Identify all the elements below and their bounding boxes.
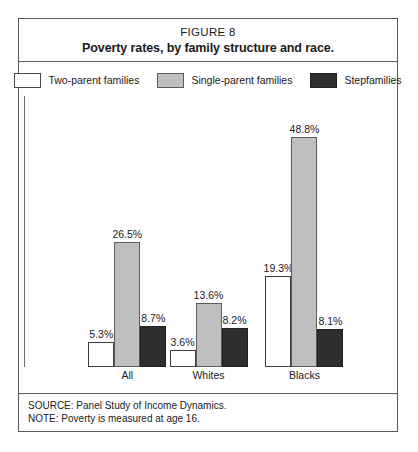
bar-rect bbox=[140, 326, 166, 367]
legend-entry: Two-parent families bbox=[14, 73, 139, 88]
chart-legend: Two-parent familiesSingle-parent familie… bbox=[19, 62, 397, 96]
bar-value-label: 13.6% bbox=[194, 289, 224, 301]
bar-rect bbox=[196, 303, 222, 367]
bar-value-label: 8.2% bbox=[223, 314, 247, 326]
figure-number: FIGURE 8 bbox=[27, 25, 389, 39]
source-line: SOURCE: Panel Study of Income Dynamics. bbox=[28, 400, 389, 413]
bar-rect bbox=[170, 350, 196, 367]
bar-column: 5.3% bbox=[88, 96, 114, 367]
bar-group-all: 5.3%26.5%8.7% bbox=[88, 96, 166, 367]
bar-group-blacks: 19.3%48.8%8.1% bbox=[265, 96, 343, 367]
bar-column: 26.5% bbox=[114, 96, 140, 367]
bar-column: 13.6% bbox=[196, 96, 222, 367]
bar-value-label: 8.7% bbox=[141, 312, 165, 324]
legend-entry-label: Single-parent families bbox=[191, 74, 292, 86]
category-label-all: All bbox=[121, 369, 133, 382]
bar-column: 8.1% bbox=[317, 96, 343, 367]
category-label-blacks: Blacks bbox=[289, 369, 320, 382]
bar-value-label: 3.6% bbox=[171, 336, 195, 348]
bar-rect bbox=[88, 342, 114, 367]
note-line: NOTE: Poverty is measured at age 16. bbox=[28, 413, 389, 426]
legend-swatch-stepfamily bbox=[310, 73, 337, 88]
legend-entry-label: Stepfamilies bbox=[344, 74, 401, 86]
legend-entry: Stepfamilies bbox=[310, 73, 401, 88]
bar-value-label: 5.3% bbox=[89, 328, 113, 340]
bar-column: 19.3% bbox=[265, 96, 291, 367]
bar-column: 8.7% bbox=[140, 96, 166, 367]
bar-value-label: 26.5% bbox=[112, 228, 142, 240]
bar-rect bbox=[291, 137, 317, 367]
figure-title: Poverty rates, by family structure and r… bbox=[27, 40, 389, 56]
bar-column: 3.6% bbox=[170, 96, 196, 367]
figure-footer: SOURCE: Panel Study of Income Dynamics. … bbox=[19, 393, 397, 431]
bar-value-label: 8.1% bbox=[318, 315, 342, 327]
category-axis-labels: AllWhitesBlacks bbox=[24, 369, 393, 389]
figure-header: FIGURE 8 Poverty rates, by family struct… bbox=[19, 19, 397, 62]
bar-rect bbox=[265, 276, 291, 367]
legend-swatch-two-parent bbox=[14, 73, 41, 88]
bar-column: 48.8% bbox=[291, 96, 317, 367]
legend-swatch-single-parent bbox=[157, 73, 184, 88]
bars-region: 5.3%26.5%8.7%3.6%13.6%8.2%19.3%48.8%8.1% bbox=[24, 96, 393, 367]
bar-rect bbox=[317, 329, 343, 367]
bar-value-label: 48.8% bbox=[290, 123, 320, 135]
bar-group-whites: 3.6%13.6%8.2% bbox=[170, 96, 248, 367]
bar-rect bbox=[222, 328, 248, 367]
figure-container: FIGURE 8 Poverty rates, by family struct… bbox=[18, 18, 398, 432]
plot-area: 5.3%26.5%8.7%3.6%13.6%8.2%19.3%48.8%8.1%… bbox=[19, 96, 397, 393]
legend-entry: Single-parent families bbox=[157, 73, 292, 88]
bar-column: 8.2% bbox=[222, 96, 248, 367]
legend-entry-label: Two-parent families bbox=[48, 74, 139, 86]
category-label-whites: Whites bbox=[192, 369, 224, 382]
bar-value-label: 19.3% bbox=[264, 262, 294, 274]
bar-rect bbox=[114, 242, 140, 367]
